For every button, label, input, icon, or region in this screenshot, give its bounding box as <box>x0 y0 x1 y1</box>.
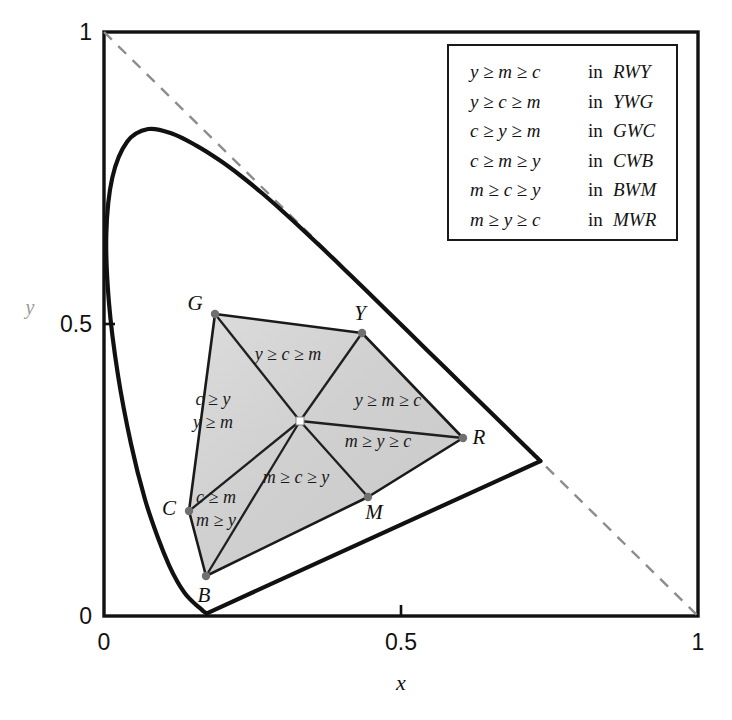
y-tick-label: 0.5 <box>60 311 92 337</box>
gamut-vertex-label-g: G <box>187 291 202 315</box>
white-point-marker <box>296 417 304 425</box>
x-axis-label: x <box>395 670 406 695</box>
legend-in-word: in <box>588 91 603 112</box>
legend-triangle-name: CWB <box>613 150 654 171</box>
legend-triangle-name: YWG <box>613 91 653 112</box>
legend-inequality: m ≥ c ≥ y <box>470 179 541 200</box>
gamut-vertex-label-c: C <box>162 496 177 520</box>
gamut-vertex-dot-b <box>202 572 210 580</box>
legend-triangle-name: BWM <box>613 179 657 200</box>
gamut-vertex-label-m: M <box>364 500 384 524</box>
chromaticity-diagram-figure: 00.5100.51 GYRMBC y ≥ m ≥ cy ≥ c ≥ mc ≥ … <box>0 0 732 720</box>
gamut-vertex-dot-r <box>459 434 467 442</box>
sector-label-ywg: y ≥ c ≥ m <box>253 344 322 364</box>
gamut-vertex-dot-g <box>211 310 219 318</box>
legend-inequality: y ≥ c ≥ m <box>468 91 540 112</box>
sector-label-rwy: y ≥ m ≥ c <box>353 390 422 410</box>
x-tick-label: 0.5 <box>385 629 417 655</box>
legend-inequality: m ≥ y ≥ c <box>470 209 541 230</box>
sector-label-bwm: m ≥ c ≥ y <box>263 467 330 487</box>
gamut-vertex-dot-c <box>185 507 193 515</box>
chromaticity-chart: 00.5100.51 GYRMBC y ≥ m ≥ cy ≥ c ≥ mc ≥ … <box>0 0 732 720</box>
x-tick-label: 1 <box>692 629 705 655</box>
y-axis-label: y <box>24 296 35 319</box>
sector-label-mwr: m ≥ y ≥ c <box>345 431 412 451</box>
legend-inequality: c ≥ y ≥ m <box>470 120 540 141</box>
sector-label-line1: c ≥ m <box>196 487 236 507</box>
x-tick-label: 0 <box>98 629 111 655</box>
gamut-vertex-label-r: R <box>472 425 486 449</box>
legend-in-word: in <box>588 209 603 230</box>
legend-in-word: in <box>588 120 603 141</box>
legend-triangle-name: GWC <box>613 120 656 141</box>
y-tick-label: 1 <box>79 19 92 45</box>
legend-triangle-name: MWR <box>612 209 657 230</box>
gamut-vertex-label-b: B <box>198 583 211 607</box>
sector-label-line2: y ≥ m <box>191 412 233 432</box>
sector-label-line2: m ≥ y <box>196 510 236 530</box>
legend-in-word: in <box>588 150 603 171</box>
legend-in-word: in <box>588 179 603 200</box>
legend-inequality: y ≥ m ≥ c <box>468 61 541 82</box>
gamut-vertex-dot-y <box>358 329 366 337</box>
legend-inequality: c ≥ m ≥ y <box>470 150 541 171</box>
legend-triangle-name: RWY <box>612 61 653 82</box>
legend: y ≥ m ≥ cinRWYy ≥ c ≥ minYWGc ≥ y ≥ minG… <box>448 45 677 240</box>
legend-in-word: in <box>588 61 603 82</box>
y-tick-label: 0 <box>79 603 92 629</box>
sector-label-line1: c ≥ y <box>196 389 231 409</box>
